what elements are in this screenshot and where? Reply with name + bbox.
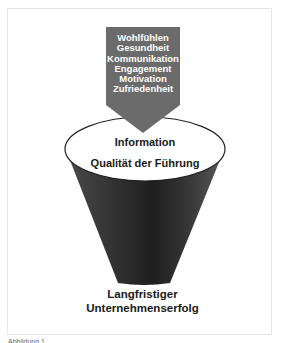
outcome-line-2: Unternehmenserfolg	[60, 301, 225, 315]
factor-item: Zufriedenheit	[104, 84, 182, 94]
funnel-outcome-label: Langfristiger Unternehmenserfolg	[60, 287, 225, 315]
funnel-label-information: Information	[65, 136, 225, 148]
arrow-factor-list: Wohlfühlen Gesundheit Kommunikation Enga…	[104, 33, 182, 95]
outcome-line-1: Langfristiger	[60, 287, 225, 301]
figure-caption: Abbildung 1	[8, 337, 45, 343]
funnel-label-quality: Qualität der Führung	[65, 157, 225, 169]
